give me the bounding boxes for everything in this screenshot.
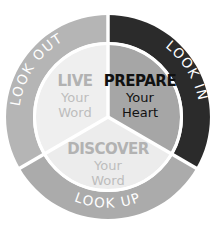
slice-title-live: LIVE <box>58 72 93 90</box>
slice-title-discover: DISCOVER <box>67 140 150 158</box>
slice-line1-discover: Your <box>93 158 122 173</box>
slice-title-prepare: PREPARE <box>104 72 177 90</box>
slice-label-live: LIVE Your Word <box>58 72 93 120</box>
slice-line1-live: Your <box>60 90 89 105</box>
slice-line2-discover: Word <box>91 173 124 188</box>
cycle-diagram: LOOK IN LOOK UP LOOK OUT PREPARE Your He… <box>0 0 218 233</box>
slice-line2-prepare: Heart <box>122 105 158 120</box>
slice-line1-prepare: Your <box>125 90 154 105</box>
slice-line2-live: Word <box>58 105 91 120</box>
